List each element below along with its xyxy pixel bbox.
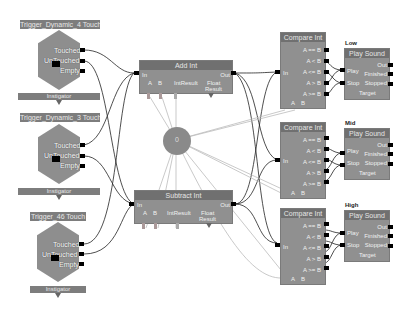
play-label: Play <box>347 68 359 75</box>
output-port[interactable] <box>80 59 85 63</box>
compare-out-port[interactable] <box>324 59 329 63</box>
play-sound-node-low[interactable]: Play Sound Play Stop Out Finished Stoppe… <box>344 48 390 100</box>
finished-port[interactable] <box>388 234 393 238</box>
compare-out-port[interactable] <box>324 244 329 248</box>
var-link-a[interactable] <box>142 223 145 229</box>
var-label-a: A <box>291 100 295 107</box>
compare-out-port[interactable] <box>324 266 329 270</box>
compare-out-port[interactable] <box>324 81 329 85</box>
compare-in-port[interactable] <box>275 243 280 247</box>
stopped-label: Stopped <box>365 160 387 167</box>
subtract-out-port[interactable] <box>231 202 236 206</box>
play-port[interactable] <box>340 231 345 235</box>
node-title: Subtract Int <box>135 191 232 200</box>
compare-out-port[interactable] <box>324 180 329 184</box>
stopped-label: Stopped <box>365 80 387 87</box>
compare-out-port[interactable] <box>324 92 329 96</box>
var-link-a[interactable] <box>147 93 150 99</box>
compare-in-port[interactable] <box>275 158 280 162</box>
output-port[interactable] <box>80 143 85 147</box>
output-label: A == B <box>303 47 321 54</box>
node-title: Compare Int <box>281 123 325 132</box>
compare-int-node-2[interactable]: Compare Int In A == B A < B A <= B A > B… <box>280 122 326 199</box>
node-title: Compare Int <box>281 209 325 218</box>
var-link-b[interactable] <box>159 93 162 99</box>
stop-port[interactable] <box>340 163 345 167</box>
compare-int-node-1[interactable]: Compare Int In A == B A < B A <= B A > B… <box>280 32 326 109</box>
compare-out-port[interactable] <box>324 169 329 173</box>
var-link-result-icon[interactable] <box>206 223 212 228</box>
kismet-canvas[interactable]: Trigger_Dynamic_4 Touch Touched UnTouche… <box>0 0 411 312</box>
var-label-intresult: IntResult <box>174 80 198 87</box>
trigger-icon <box>52 156 60 162</box>
output-port[interactable] <box>79 262 84 266</box>
var-link-result-icon[interactable] <box>208 93 214 98</box>
instigator-arrow-icon[interactable] <box>55 293 61 298</box>
output-port[interactable] <box>80 69 85 73</box>
port-label: Touched <box>53 241 79 249</box>
compare-out-port[interactable] <box>324 233 329 237</box>
output-port[interactable] <box>80 154 85 158</box>
var-link-intresult[interactable] <box>174 93 177 99</box>
output-label: A <= B <box>303 245 321 252</box>
var-label-a: A <box>143 210 147 217</box>
var-link-intresult[interactable] <box>176 223 179 229</box>
out-port[interactable] <box>388 225 393 229</box>
output-port[interactable] <box>80 48 85 52</box>
stopped-port[interactable] <box>388 162 393 166</box>
compare-out-port[interactable] <box>324 158 329 162</box>
compare-out-port[interactable] <box>324 136 329 140</box>
compare-out-port[interactable] <box>324 255 329 259</box>
port-label: UnTouched <box>44 152 79 160</box>
subtract-in-port[interactable] <box>129 202 134 206</box>
var-label-a: A <box>291 190 295 197</box>
compare-out-port[interactable] <box>324 70 329 74</box>
in-label: In <box>142 72 147 79</box>
subtract-int-node[interactable]: Subtract Int In Out A B IntResult Float … <box>134 190 233 224</box>
play-sound-node-high[interactable]: Play Sound Play Stop Out Finished Stoppe… <box>344 210 390 262</box>
output-label: A > B <box>306 256 321 263</box>
var-label-a: A <box>148 80 152 87</box>
compare-in-port[interactable] <box>275 70 280 74</box>
add-in-port[interactable] <box>134 71 139 75</box>
in-label: In <box>283 244 288 251</box>
add-int-node[interactable]: Add Int In Out A B IntResult Float Resul… <box>139 60 233 94</box>
compare-out-port[interactable] <box>324 147 329 151</box>
compare-out-port[interactable] <box>324 48 329 52</box>
finished-port[interactable] <box>388 152 393 156</box>
stopped-port[interactable] <box>388 244 393 248</box>
instigator-arrow-icon[interactable] <box>56 100 62 105</box>
trigger-icon <box>52 61 60 67</box>
out-label: Out <box>220 72 230 79</box>
output-label: A < B <box>306 148 321 155</box>
out-port[interactable] <box>388 63 393 67</box>
stop-port[interactable] <box>340 243 345 247</box>
var-label-b: B <box>301 276 305 283</box>
var-link-b[interactable] <box>154 223 157 229</box>
output-label: A > B <box>306 170 321 177</box>
int-variable[interactable]: 0 <box>163 127 191 155</box>
instigator-arrow-icon[interactable] <box>56 195 62 200</box>
stopped-label: Stopped <box>365 242 387 249</box>
finished-port[interactable] <box>388 72 393 76</box>
output-port[interactable] <box>79 242 84 246</box>
instigator-bar: Instigator <box>18 93 100 100</box>
out-port[interactable] <box>388 143 393 147</box>
play-port[interactable] <box>340 151 345 155</box>
port-label: Empty <box>59 261 79 269</box>
compare-int-node-3[interactable]: Compare Int In A == B A < B A <= B A > B… <box>280 208 326 285</box>
output-port[interactable] <box>79 252 84 256</box>
sound-heading-high: High <box>345 202 358 208</box>
output-port[interactable] <box>80 164 85 168</box>
sound-heading-low: Low <box>345 40 357 46</box>
add-out-port[interactable] <box>231 71 236 75</box>
output-label: A == B <box>303 137 321 144</box>
out-label: Out <box>220 202 230 209</box>
play-port[interactable] <box>340 68 345 72</box>
play-sound-node-mid[interactable]: Play Sound Play Stop Out Finished Stoppe… <box>344 128 390 180</box>
compare-out-port[interactable] <box>324 222 329 226</box>
var-label-b: B <box>301 190 305 197</box>
stopped-port[interactable] <box>388 82 393 86</box>
stop-port[interactable] <box>340 81 345 85</box>
target-label: Target <box>359 90 376 97</box>
